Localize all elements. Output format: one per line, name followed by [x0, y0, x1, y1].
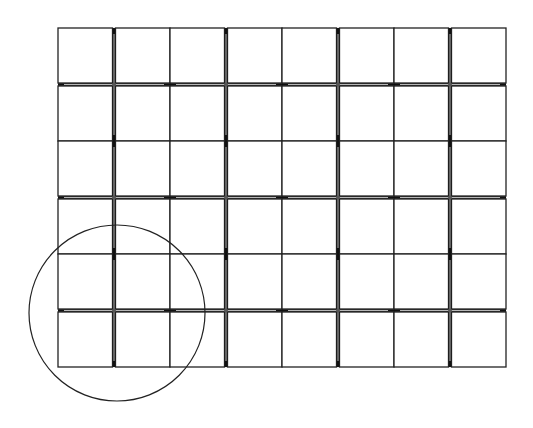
- tile: [340, 28, 395, 83]
- tile: [170, 199, 225, 254]
- tile: [116, 312, 171, 367]
- tile: [340, 312, 395, 367]
- tile-module: [394, 254, 506, 367]
- tile: [58, 141, 113, 196]
- tile: [58, 86, 113, 141]
- tile: [170, 312, 225, 367]
- tile: [452, 199, 507, 254]
- seam-junction: [112, 83, 116, 87]
- tile: [340, 199, 395, 254]
- tile: [116, 141, 171, 196]
- tile: [228, 254, 283, 309]
- seam-junction: [224, 83, 228, 87]
- seam-junction: [112, 196, 116, 200]
- tile: [228, 141, 283, 196]
- tile: [452, 86, 507, 141]
- tile-module: [170, 141, 282, 254]
- seam-junction: [336, 196, 340, 200]
- tile-module: [394, 28, 506, 141]
- diagram-canvas: Tile grid layout with highlighted corner…: [0, 0, 533, 428]
- tile: [394, 254, 449, 309]
- seam-junction: [448, 83, 452, 87]
- tile: [340, 254, 395, 309]
- tile: [228, 199, 283, 254]
- tile-module: [58, 141, 170, 254]
- tile: [116, 254, 171, 309]
- tile-module: [58, 28, 170, 141]
- seam-junction: [224, 196, 228, 200]
- tile-module: [58, 254, 170, 367]
- tile: [116, 86, 171, 141]
- tile: [170, 28, 225, 83]
- tile: [282, 86, 337, 141]
- tile: [282, 254, 337, 309]
- tile: [170, 141, 225, 196]
- seam-junction: [224, 309, 228, 313]
- tile: [58, 28, 113, 83]
- tile-module: [170, 254, 282, 367]
- tile: [170, 254, 225, 309]
- tile-module: [282, 141, 394, 254]
- tile: [228, 312, 283, 367]
- seam-junction: [448, 196, 452, 200]
- tile-module: [282, 254, 394, 367]
- tile: [228, 28, 283, 83]
- tile: [116, 28, 171, 83]
- tile: [340, 141, 395, 196]
- tile-module: [170, 28, 282, 141]
- tile: [394, 28, 449, 83]
- seam-junction: [112, 309, 116, 313]
- tile: [170, 86, 225, 141]
- seam-junction: [448, 309, 452, 313]
- tile: [58, 254, 113, 309]
- tile: [282, 199, 337, 254]
- tile: [394, 199, 449, 254]
- tile: [452, 312, 507, 367]
- tile: [394, 141, 449, 196]
- tile-grid-diagram: [0, 0, 533, 428]
- tile: [394, 86, 449, 141]
- tile: [58, 312, 113, 367]
- tile-module: [282, 28, 394, 141]
- tile: [452, 28, 507, 83]
- tile: [282, 28, 337, 83]
- tile-grid: [58, 28, 506, 367]
- tile: [452, 254, 507, 309]
- tile-module: [394, 141, 506, 254]
- tile: [282, 312, 337, 367]
- seam-junction: [336, 83, 340, 87]
- tile: [340, 86, 395, 141]
- tile: [116, 199, 171, 254]
- tile: [282, 141, 337, 196]
- tile: [394, 312, 449, 367]
- seam-junction: [336, 309, 340, 313]
- tile: [228, 86, 283, 141]
- tile: [452, 141, 507, 196]
